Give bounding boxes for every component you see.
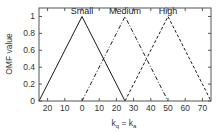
- x-tick-label: 70: [198, 103, 208, 113]
- y-tick-label: 0: [30, 96, 35, 106]
- x-axis-label: kq = ka: [112, 118, 138, 129]
- y-tick-label: 0.6: [23, 45, 35, 55]
- series-high-line: [125, 17, 211, 102]
- x-tick-label: 0: [80, 103, 85, 113]
- y-axis-label: OMF value: [4, 33, 14, 75]
- series-small-line: [39, 17, 125, 102]
- x-tick-label: 50: [163, 103, 173, 113]
- y-tick-label: 1: [30, 11, 35, 21]
- y-tick-label: 0.4: [23, 62, 35, 72]
- x-tick-label: 30: [129, 103, 139, 113]
- plot-frame: [39, 8, 211, 101]
- y-tick-label: 0.2: [23, 79, 35, 89]
- x-tick-label: 60: [180, 103, 190, 113]
- x-label-sub2: a: [133, 123, 137, 129]
- x-label-eq: =: [119, 118, 129, 128]
- x-tick-label: 20: [112, 103, 122, 113]
- y-axis-ticks: 00.20.40.60.81: [23, 11, 211, 106]
- x-tick-label: 10: [94, 103, 104, 113]
- x-tick-label: 20: [43, 103, 53, 113]
- x-axis-ticks: 2010010203040506070: [43, 8, 208, 113]
- series-medium-line: [82, 17, 168, 102]
- x-tick-label: 40: [146, 103, 156, 113]
- omf-membership-chart: 00.20.40.60.81 2010010203040506070 Small…: [0, 0, 223, 132]
- x-tick-label: 10: [60, 103, 70, 113]
- y-tick-label: 0.8: [23, 28, 35, 38]
- series-lines: [39, 17, 211, 102]
